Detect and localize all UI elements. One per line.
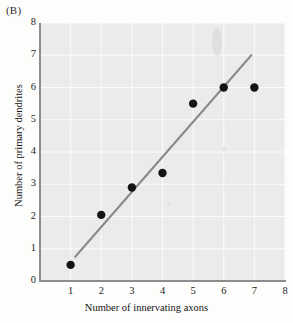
- y-axis-title: Number of primary dendrites: [13, 46, 24, 246]
- plot-area: [40, 23, 285, 281]
- y-tick-label: 7: [22, 48, 36, 59]
- y-axis-line: [39, 23, 41, 282]
- x-axis-line: [39, 280, 286, 282]
- y-tick-label: 4: [22, 145, 36, 156]
- x-axis-tick-labels: 12345678: [0, 285, 293, 301]
- x-tick-label: 1: [63, 285, 79, 296]
- data-point: [66, 261, 74, 269]
- y-tick-label: 6: [22, 81, 36, 92]
- figure-panel-b: (B) 012345678 12345678 Number of innerva…: [0, 0, 293, 323]
- y-tick-label: 2: [22, 210, 36, 221]
- data-point: [189, 99, 197, 107]
- y-tick-label: 0: [22, 274, 36, 285]
- x-tick-label: 5: [185, 285, 201, 296]
- data-layer: [40, 23, 285, 281]
- y-tick-label: 1: [22, 242, 36, 253]
- data-point: [158, 169, 166, 177]
- y-tick-label: 3: [22, 177, 36, 188]
- data-point: [250, 83, 258, 91]
- data-point: [128, 183, 136, 191]
- x-tick-label: 6: [216, 285, 232, 296]
- x-tick-label: 7: [246, 285, 262, 296]
- x-axis-title: Number of innervating axons: [0, 302, 293, 313]
- y-tick-label: 8: [22, 16, 36, 27]
- data-point: [97, 211, 105, 219]
- x-tick-label: 4: [155, 285, 171, 296]
- x-tick-label: 2: [93, 285, 109, 296]
- x-tick-label: 8: [277, 285, 293, 296]
- x-tick-label: 3: [124, 285, 140, 296]
- data-point: [220, 83, 228, 91]
- y-tick-label: 5: [22, 113, 36, 124]
